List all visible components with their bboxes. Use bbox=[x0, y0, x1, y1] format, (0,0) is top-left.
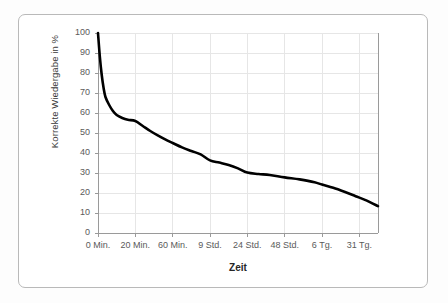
forgetting-curve-line bbox=[98, 33, 378, 206]
y-tick-label: 60 bbox=[64, 107, 90, 117]
x-tick-label: 31 Tg. bbox=[330, 240, 388, 250]
y-tick-label: 70 bbox=[64, 87, 90, 97]
x-axis-ticks bbox=[98, 233, 359, 237]
y-tick-label: 40 bbox=[64, 147, 90, 157]
y-tick-label: 20 bbox=[64, 187, 90, 197]
y-tick-label: 30 bbox=[64, 167, 90, 177]
y-tick-label: 0 bbox=[64, 227, 90, 237]
y-tick-label: 100 bbox=[64, 27, 90, 37]
y-tick-label: 80 bbox=[64, 67, 90, 77]
y-tick-label: 50 bbox=[64, 127, 90, 137]
grid-horizontal bbox=[98, 33, 378, 233]
x-axis-title: Zeit bbox=[98, 262, 378, 273]
y-axis-title: Korrekte Wiedergabe in % bbox=[49, 12, 60, 172]
y-tick-label: 90 bbox=[64, 47, 90, 57]
y-tick-label: 10 bbox=[64, 207, 90, 217]
chart-page: 0102030405060708090100 0 Min.20 Min.60 M… bbox=[0, 0, 448, 303]
